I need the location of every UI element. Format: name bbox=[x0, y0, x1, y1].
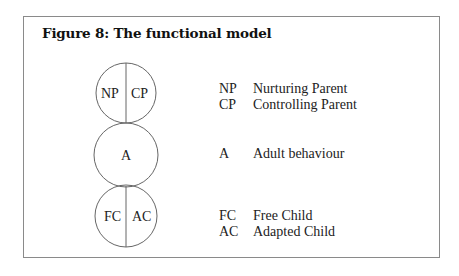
legend-desc-ac: Adapted Child bbox=[253, 224, 335, 240]
np-label: NP bbox=[101, 86, 119, 101]
ac-label: AC bbox=[132, 209, 151, 224]
legend-abbr-fc: FC bbox=[219, 208, 236, 224]
legend-abbr-cp: CP bbox=[219, 97, 236, 113]
legend-abbr-ac: AC bbox=[219, 224, 238, 240]
legend-abbr-a: A bbox=[219, 146, 229, 162]
legend-desc-cp: Controlling Parent bbox=[253, 97, 357, 113]
fc-label: FC bbox=[104, 209, 121, 224]
legend-abbr-np: NP bbox=[219, 81, 237, 97]
legend-desc-a: Adult behaviour bbox=[253, 146, 344, 162]
a-label: A bbox=[121, 148, 132, 163]
legend-desc-fc: Free Child bbox=[253, 208, 313, 224]
cp-label: CP bbox=[131, 86, 148, 101]
legend-desc-np: Nurturing Parent bbox=[253, 81, 347, 97]
